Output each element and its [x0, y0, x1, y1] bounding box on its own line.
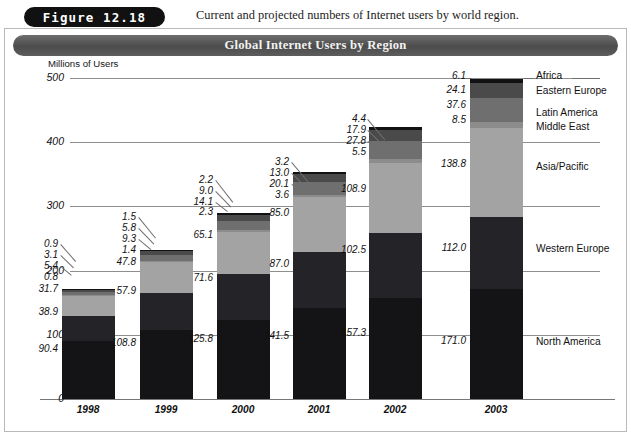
- value-label-af-1999: 1.5: [100, 211, 136, 222]
- value-label-ap-2000: 65.1: [169, 229, 213, 240]
- plot-area: 500 400 300 200 100 0 90.4 38.9 31.7 0.8…: [0, 0, 631, 436]
- legend-leader-africa-left: [524, 78, 534, 79]
- value-label-af-2001: 3.2: [253, 156, 289, 167]
- y-tick-400: 400: [24, 135, 64, 147]
- y-tick-100: 100: [24, 328, 64, 340]
- legend-item-latin-america: Latin America: [536, 107, 598, 118]
- legend-item-western-europe: Western Europe: [536, 243, 609, 254]
- value-label-ee-2003: 24.1: [422, 84, 466, 95]
- segment-latin-america-2002: [369, 141, 422, 159]
- value-label-ee-1998: 3.1: [22, 249, 58, 260]
- segment-asia-pacific-2003: [470, 128, 523, 217]
- value-label-af-2003: 6.1: [426, 70, 466, 81]
- legend-leader-africa-right: [572, 78, 600, 79]
- value-label-la-2002: 27.8: [322, 135, 366, 146]
- value-label-ee-2002: 17.9: [322, 124, 366, 135]
- value-label-we-2002: 102.5: [318, 244, 366, 255]
- x-tick-1998: 1998: [58, 404, 118, 415]
- legend-item-asia-pacific: Asia/Pacific: [536, 161, 589, 172]
- x-tick-1999: 1999: [136, 404, 196, 415]
- segment-western-europe-2000: [217, 274, 270, 320]
- value-label-af-2002: 4.4: [326, 113, 366, 124]
- value-label-ap-2003: 138.8: [418, 158, 466, 169]
- y-tick-300: 300: [24, 199, 64, 211]
- value-label-ap-2002: 108.9: [318, 183, 366, 194]
- value-label-ee-2001: 13.0: [249, 167, 289, 178]
- value-label-me-2000: 2.3: [177, 206, 213, 217]
- segment-western-europe-1999: [140, 293, 193, 330]
- gridline-0: [40, 399, 615, 400]
- value-label-la-1999: 9.3: [100, 233, 136, 244]
- value-label-af-1998: 0.9: [22, 238, 58, 249]
- value-label-la-2000: 14.1: [173, 196, 213, 207]
- value-label-me-2002: 5.5: [326, 146, 366, 157]
- value-label-la-2001: 20.1: [249, 178, 289, 189]
- value-label-we-1998: 38.9: [18, 306, 58, 317]
- leader-line-africa-2003: [466, 78, 472, 79]
- segment-western-europe-2001: [293, 252, 346, 308]
- figure-page: Figure 12.18 Current and projected numbe…: [0, 0, 631, 436]
- bar-2000[interactable]: [217, 213, 270, 399]
- legend-item-middle-east: Middle East: [536, 121, 589, 132]
- value-label-la-1998: 5.4: [22, 260, 58, 271]
- value-label-me-2001: 3.6: [253, 189, 289, 200]
- value-label-me-1998: 0.8: [22, 271, 58, 282]
- value-label-la-2003: 37.6: [422, 99, 466, 110]
- segment-asia-pacific-2002: [369, 163, 422, 233]
- segment-latin-america-2000: [217, 221, 270, 230]
- value-label-we-1999: 57.9: [92, 285, 136, 296]
- bar-2002[interactable]: [369, 127, 422, 399]
- value-label-na-2001: 141.5: [245, 330, 289, 341]
- x-tick-2001: 2001: [289, 404, 349, 415]
- value-label-ap-2001: 85.0: [245, 207, 289, 218]
- value-label-na-2003: 171.0: [418, 335, 466, 346]
- x-tick-2000: 2000: [213, 404, 273, 415]
- value-label-ap-1999: 47.8: [92, 256, 136, 267]
- value-label-ee-2000: 9.0: [177, 185, 213, 196]
- y-tick-0: 0: [24, 392, 64, 404]
- segment-western-europe-2002: [369, 233, 422, 298]
- value-label-na-2002: 157.3: [318, 327, 366, 338]
- y-tick-500: 500: [24, 71, 64, 83]
- leader-line-1999-a: [138, 217, 156, 239]
- bar-2003[interactable]: [470, 79, 523, 399]
- segment-latin-america-2003: [470, 98, 523, 122]
- legend-item-africa: Africa: [536, 70, 562, 81]
- value-label-na-1998: 90.4: [18, 343, 58, 354]
- legend-item-north-america: North America: [536, 336, 601, 347]
- value-label-af-2000: 2.2: [177, 174, 213, 185]
- segment-asia-pacific-1998: [62, 296, 115, 316]
- segment-north-america-1998: [62, 341, 115, 399]
- value-label-na-2000: 125.8: [169, 333, 213, 344]
- x-tick-2002: 2002: [365, 404, 425, 415]
- legend-item-eastern-europe: Eastern Europe: [536, 85, 607, 96]
- x-tick-2003: 2003: [466, 404, 526, 415]
- segment-north-america-2002: [369, 298, 422, 399]
- value-label-ee-1999: 5.8: [100, 222, 136, 233]
- value-label-ap-1998: 31.7: [18, 283, 58, 294]
- leader-line-1998-a: [60, 244, 76, 262]
- bar-2001[interactable]: [293, 172, 346, 399]
- segment-eastern-europe-2003: [470, 83, 523, 98]
- segment-north-america-2003: [470, 289, 523, 399]
- value-label-we-2000: 71.6: [169, 272, 213, 283]
- value-label-me-2003: 8.5: [426, 114, 466, 125]
- value-label-me-1999: 1.4: [100, 244, 136, 255]
- value-label-na-1999: 108.8: [92, 337, 136, 348]
- value-label-we-2003: 112.0: [418, 242, 466, 253]
- segment-western-europe-2003: [470, 217, 523, 289]
- value-label-we-2001: 87.0: [245, 258, 289, 269]
- segment-north-america-2001: [293, 308, 346, 399]
